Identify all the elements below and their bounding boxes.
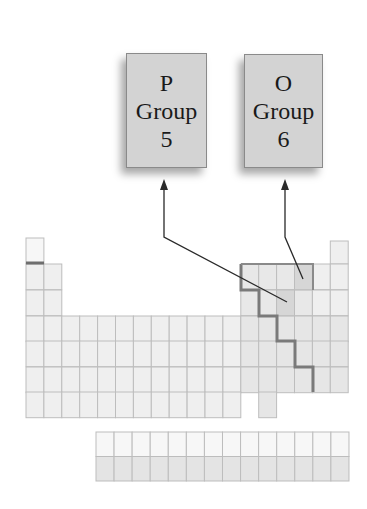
element-cell (96, 457, 114, 482)
element-cell (277, 367, 295, 393)
element-cell (186, 457, 204, 482)
element-cell (223, 392, 241, 418)
element-cell (114, 457, 132, 482)
element-cell (98, 341, 116, 367)
element-cell (151, 367, 169, 393)
element-cell (44, 264, 62, 290)
element-cell (116, 367, 134, 393)
element-cell (277, 457, 295, 482)
element-cell (187, 341, 205, 367)
element-cell (26, 367, 44, 393)
element-cell (295, 341, 313, 367)
element-cell (205, 316, 223, 342)
element-cell (259, 432, 277, 457)
element-cell (277, 316, 295, 342)
element-cell (133, 392, 151, 418)
element-cell (151, 316, 169, 342)
element-cell (259, 290, 277, 316)
element-cell (205, 341, 223, 367)
element-cell (80, 341, 98, 367)
element-cell (44, 341, 62, 367)
element-cell (277, 264, 295, 290)
element-cell (133, 341, 151, 367)
element-cell (98, 392, 116, 418)
element-cell (295, 264, 313, 290)
element-cell (132, 457, 150, 482)
element-cell (187, 316, 205, 342)
element-cell (330, 290, 348, 316)
element-cell (26, 264, 44, 290)
element-cell (312, 264, 330, 290)
element-cell (277, 432, 295, 457)
element-cell (116, 316, 134, 342)
element-cell (259, 457, 277, 482)
element-cell (169, 367, 187, 393)
element-cell (313, 457, 331, 482)
element-cell (169, 392, 187, 418)
element-cell (223, 341, 241, 367)
element-cell (116, 341, 134, 367)
periodic-table-outline (0, 0, 367, 509)
element-cell (223, 316, 241, 342)
element-cell (168, 432, 186, 457)
element-cell (187, 392, 205, 418)
element-cell (26, 341, 44, 367)
element-cell (241, 432, 259, 457)
element-cell (133, 316, 151, 342)
element-cell (116, 392, 134, 418)
element-cell (62, 367, 80, 393)
element-cell (80, 392, 98, 418)
element-cell (96, 432, 114, 457)
element-cell (241, 341, 259, 367)
element-cell (205, 392, 223, 418)
element-cell (62, 316, 80, 342)
element-cell (295, 290, 313, 316)
element-cell (186, 432, 204, 457)
element-cell (312, 290, 330, 316)
element-cell (169, 316, 187, 342)
element-cell (98, 316, 116, 342)
element-cell (331, 457, 349, 482)
element-cell (150, 432, 168, 457)
element-cell (241, 457, 259, 482)
element-cell (151, 392, 169, 418)
element-cell (313, 432, 331, 457)
element-cell (26, 316, 44, 342)
element-cell (26, 290, 44, 316)
element-cell (44, 316, 62, 342)
element-cell (330, 316, 348, 342)
element-cell (222, 457, 240, 482)
element-cell (44, 367, 62, 393)
element-cell (330, 341, 348, 367)
element-cell (133, 367, 151, 393)
element-cell (62, 392, 80, 418)
element-cell (169, 341, 187, 367)
element-cell (259, 264, 277, 290)
element-cell (26, 392, 44, 418)
element-cell (312, 367, 330, 393)
element-cell (187, 367, 205, 393)
element-cell (295, 457, 313, 482)
element-cell (114, 432, 132, 457)
element-cell (259, 392, 277, 418)
element-cell (44, 290, 62, 316)
element-cell (223, 367, 241, 393)
element-cell (330, 367, 348, 393)
element-cell (150, 457, 168, 482)
element-cell (204, 457, 222, 482)
element-cell (259, 316, 277, 342)
element-cell (151, 341, 169, 367)
element-cell (331, 432, 349, 457)
element-cell (330, 264, 348, 290)
element-cell (204, 432, 222, 457)
element-cell (241, 290, 259, 316)
element-cell (241, 367, 259, 393)
element-cell (241, 316, 259, 342)
element-cell (312, 341, 330, 367)
element-cell (330, 241, 348, 264)
element-cell (277, 341, 295, 367)
element-cell (259, 367, 277, 393)
element-cell (295, 367, 313, 393)
element-cell (222, 432, 240, 457)
element-cell (26, 238, 44, 264)
